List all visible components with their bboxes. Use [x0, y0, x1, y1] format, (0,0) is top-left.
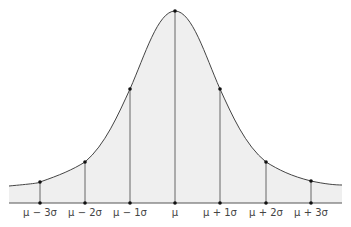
label-mu-minus-2sigma: μ − 2σ: [68, 207, 102, 218]
label-mu: μ: [172, 207, 178, 218]
bell-curve-chart: [0, 0, 351, 227]
label-mu-plus-2sigma: μ + 2σ: [249, 207, 283, 218]
label-mu-minus-3sigma: μ − 3σ: [23, 207, 57, 218]
label-mu-plus-1sigma: μ + 1σ: [203, 207, 237, 218]
label-mu-plus-3sigma: μ + 3σ: [294, 207, 328, 218]
label-mu-minus-1sigma: μ − 1σ: [113, 207, 147, 218]
